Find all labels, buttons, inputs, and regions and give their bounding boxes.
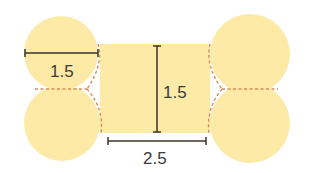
circle-top-right (210, 14, 290, 94)
circle-bottom-left (24, 85, 100, 161)
diameter-label: 1.5 (50, 62, 74, 81)
width-label: 2.5 (143, 149, 167, 168)
height-label: 1.5 (163, 83, 187, 102)
center-rectangle (100, 44, 210, 133)
bone-diagram: 1.5 1.5 2.5 (0, 0, 312, 173)
circle-bottom-right (210, 83, 290, 163)
